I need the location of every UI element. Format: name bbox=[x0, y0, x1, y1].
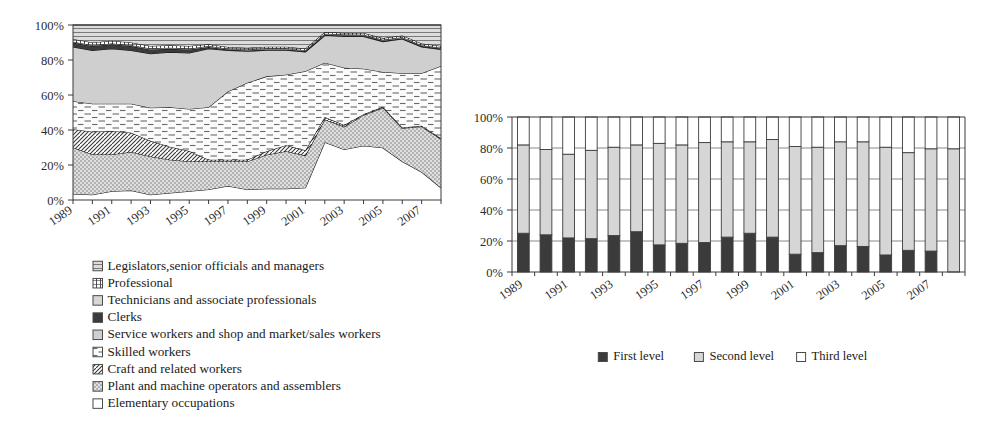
left-x-tick-label: 1993 bbox=[124, 203, 153, 229]
left-plot-area bbox=[73, 25, 441, 200]
right-gridlines bbox=[512, 148, 965, 241]
bar-segment bbox=[721, 142, 733, 237]
bar-segment bbox=[744, 117, 756, 142]
bar-group bbox=[676, 117, 688, 272]
bar-group bbox=[517, 117, 529, 272]
legend-label: Professional bbox=[108, 275, 174, 290]
bar-segment bbox=[948, 149, 960, 272]
bar-segment bbox=[767, 117, 779, 139]
bar-segment bbox=[767, 139, 779, 237]
legend-label: Elementary occupations bbox=[108, 395, 235, 410]
bar-segment bbox=[744, 142, 756, 233]
bar-segment bbox=[540, 235, 552, 272]
bar-segment bbox=[902, 117, 914, 153]
left-y-tick-label: 40% bbox=[41, 124, 64, 138]
bar-segment bbox=[631, 145, 643, 232]
swatch-second-level bbox=[694, 353, 703, 362]
right-y-tick-label: 80% bbox=[480, 142, 503, 156]
legend-item: Plant and machine operators and assemble… bbox=[93, 378, 341, 393]
bar-group bbox=[631, 117, 643, 272]
left-y-tick-label: 20% bbox=[41, 159, 64, 173]
bar-segment bbox=[857, 117, 869, 142]
bar-segment bbox=[857, 142, 869, 247]
bar-group bbox=[721, 117, 733, 272]
left-x-tick-label: 2003 bbox=[317, 203, 346, 229]
bar-group bbox=[948, 117, 960, 272]
bar-segment bbox=[676, 117, 688, 145]
bar-segment bbox=[517, 117, 529, 145]
bar-segment bbox=[880, 117, 892, 147]
right-x-tick-label: 2005 bbox=[859, 277, 888, 303]
legend-label: Third level bbox=[812, 349, 868, 363]
bar-segment bbox=[812, 117, 824, 147]
left-x-tick-label: 1995 bbox=[162, 203, 191, 229]
bar-segment bbox=[653, 117, 665, 143]
bar-segment bbox=[948, 117, 960, 149]
bar-group bbox=[789, 117, 801, 272]
legend-item: Technicians and associate professionals bbox=[93, 292, 316, 307]
bar-segment bbox=[857, 246, 869, 272]
figure-root: 0%20%40%60%80%100% 198919911993199519971… bbox=[0, 0, 998, 430]
right-y-tick-label: 20% bbox=[480, 235, 503, 249]
bar-segment bbox=[563, 238, 575, 272]
left-y-tick-label: 100% bbox=[35, 19, 64, 33]
bar-segment bbox=[585, 117, 597, 150]
bar-group bbox=[925, 117, 937, 272]
legend-item: Service workers and shop and market/sale… bbox=[93, 326, 381, 341]
bar-group bbox=[744, 117, 756, 272]
left-y-tick-label: 0% bbox=[47, 194, 64, 208]
left-y-tick-label: 80% bbox=[41, 54, 64, 68]
bar-segment bbox=[925, 149, 937, 251]
bar-group bbox=[857, 117, 869, 272]
bar-segment bbox=[540, 117, 552, 150]
right-x-tick-label: 1991 bbox=[542, 277, 571, 303]
legend-label: Technicians and associate professionals bbox=[108, 292, 317, 307]
bar-segment bbox=[563, 154, 575, 238]
legend-label: Craft and related workers bbox=[108, 361, 242, 376]
right-bars-area bbox=[517, 117, 959, 272]
bar-segment bbox=[789, 117, 801, 146]
swatch-technicians bbox=[93, 296, 103, 306]
bar-group bbox=[563, 117, 575, 272]
legend-item: Clerks bbox=[93, 309, 142, 324]
left-x-tick-label: 2005 bbox=[356, 203, 385, 229]
bar-segment bbox=[676, 145, 688, 243]
bar-segment bbox=[653, 143, 665, 245]
legend-label: Skilled workers bbox=[108, 344, 191, 359]
left-x-tick-label: 2007 bbox=[395, 203, 424, 229]
swatch-service bbox=[93, 330, 103, 340]
bar-segment bbox=[676, 243, 688, 272]
legend-item: Legislators,senior officials and manager… bbox=[93, 258, 324, 273]
swatch-first-level bbox=[598, 353, 607, 362]
bar-segment bbox=[608, 117, 620, 147]
swatch-plant bbox=[93, 382, 103, 392]
bar-segment bbox=[925, 251, 937, 272]
bar-segment bbox=[517, 145, 529, 233]
bar-segment bbox=[631, 232, 643, 272]
right-y-tick-label: 100% bbox=[474, 111, 503, 125]
bar-segment bbox=[789, 254, 801, 272]
swatch-elementary bbox=[93, 399, 103, 409]
legend-label: Second level bbox=[709, 349, 774, 363]
legend-label: Legislators,senior officials and manager… bbox=[108, 258, 325, 273]
bar-segment bbox=[925, 117, 937, 149]
right-x-tick-label: 1989 bbox=[497, 277, 526, 303]
swatch-clerks bbox=[93, 313, 103, 323]
bar-segment bbox=[517, 233, 529, 272]
legend-item: Second level bbox=[694, 349, 774, 363]
left-legend: Legislators,senior officials and manager… bbox=[93, 258, 381, 411]
right-x-tick-label: 2001 bbox=[768, 277, 797, 303]
bar-segment bbox=[835, 142, 847, 246]
bar-segment bbox=[721, 237, 733, 272]
bar-segment bbox=[653, 245, 665, 272]
swatch-third-level bbox=[797, 353, 806, 362]
left-x-tick-label: 1999 bbox=[240, 203, 269, 229]
bar-segment bbox=[699, 243, 711, 272]
left-x-axis-labels: 1989199119931995199719992001200320052007 bbox=[46, 203, 423, 229]
legend-label: Clerks bbox=[108, 309, 142, 324]
right-legend: First levelSecond levelThird level bbox=[598, 349, 867, 363]
bar-segment bbox=[744, 233, 756, 272]
right-x-tick-label: 1997 bbox=[678, 277, 707, 303]
bar-segment bbox=[699, 117, 711, 143]
bar-segment bbox=[789, 146, 801, 254]
